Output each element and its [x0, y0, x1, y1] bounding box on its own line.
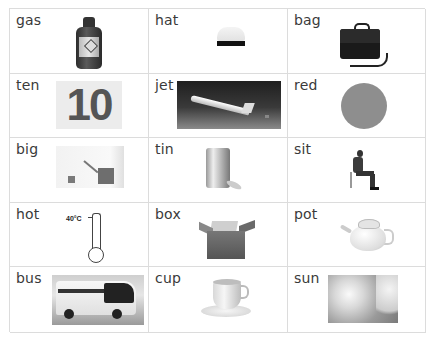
- cell-pot: pot: [288, 203, 426, 267]
- cell-big: big: [10, 138, 149, 203]
- word-label: sun: [294, 270, 320, 286]
- word-label: bag: [294, 12, 321, 28]
- cell-bag: bag: [288, 9, 426, 74]
- cell-bus: bus: [10, 267, 149, 333]
- cell-red: red: [288, 74, 426, 138]
- bag-icon: [340, 23, 388, 69]
- gas-cylinder-icon: [76, 17, 102, 69]
- cell-gas: gas: [10, 9, 149, 74]
- word-label: jet: [155, 77, 174, 93]
- cell-ten: ten 10: [10, 74, 149, 138]
- cardboard-box-icon: [199, 217, 257, 261]
- word-label: hot: [16, 206, 40, 222]
- word-picture-grid: gas hat bag ten 10 jet red big: [9, 8, 425, 332]
- jet-plane-icon: [177, 81, 281, 129]
- word-label: ten: [16, 77, 40, 93]
- cell-hot: hot 40°C: [10, 203, 149, 267]
- word-label: tin: [155, 141, 174, 157]
- big-small-squares-icon: [56, 146, 124, 188]
- cell-cup: cup: [149, 267, 288, 333]
- word-label: bus: [16, 270, 42, 286]
- cell-jet: jet: [149, 74, 288, 138]
- word-label: sit: [294, 141, 311, 157]
- cell-hat: hat: [149, 9, 288, 74]
- thermometer-icon: 40°C: [66, 213, 106, 263]
- word-label: red: [294, 77, 318, 93]
- cell-sun: sun: [288, 267, 426, 333]
- word-label: gas: [16, 12, 41, 28]
- red-circle-icon: [341, 83, 387, 129]
- hat-icon: [205, 27, 257, 55]
- number-ten-icon: 10: [56, 81, 122, 129]
- word-label: hat: [155, 12, 179, 28]
- cell-sit: sit: [288, 138, 426, 203]
- word-label: pot: [294, 206, 318, 222]
- cell-box: box: [149, 203, 288, 267]
- sun-icon: [328, 275, 398, 323]
- temperature-label: 40°C: [66, 215, 82, 222]
- cell-tin: tin: [149, 138, 288, 203]
- word-label: cup: [155, 270, 181, 286]
- tin-can-icon: [206, 148, 246, 192]
- word-label: big: [16, 141, 38, 157]
- word-label: box: [155, 206, 181, 222]
- teapot-icon: [340, 217, 396, 255]
- cup-and-saucer-icon: [201, 277, 253, 319]
- seated-man-icon: [348, 150, 382, 192]
- cropped-heading-fragment: [0, 0, 432, 2]
- coach-bus-icon: [52, 275, 144, 325]
